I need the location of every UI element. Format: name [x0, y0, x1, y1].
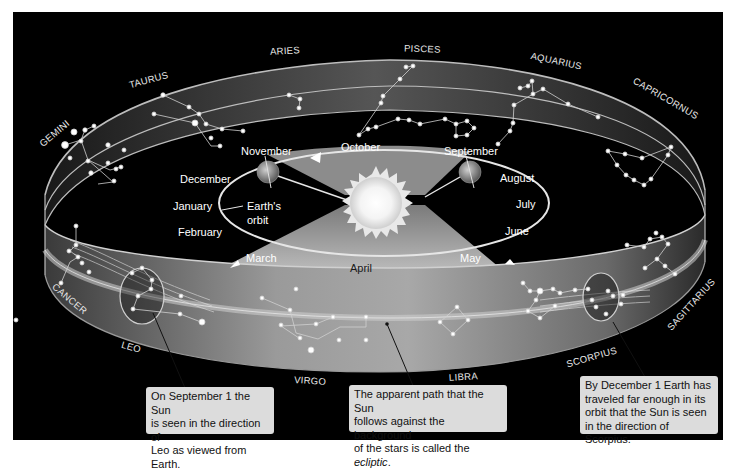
ecliptic-callout-line3-period: .: [388, 456, 391, 468]
scorpius-callout-line2: traveled far enough in its: [585, 393, 713, 407]
ecliptic-term: ecliptic: [354, 456, 388, 468]
ecliptic-callout-line3: of the stars is called the ecliptic.: [354, 442, 502, 469]
leo-callout: On September 1 the Sun is seen in the di…: [146, 387, 274, 434]
month-label-june: June: [505, 225, 529, 237]
month-label-july: July: [516, 198, 536, 210]
month-label-march: March: [246, 252, 277, 264]
constellation-label-taurus: TAURUS: [128, 69, 170, 90]
leo-callout-line2: is seen in the direction of: [151, 417, 269, 444]
leo-callout-line1: On September 1 the Sun: [151, 390, 269, 417]
ecliptic-callout: The apparent path that the Sun follows a…: [349, 385, 507, 432]
constellation-label-pisces: PISCES: [404, 43, 441, 55]
earths-orbit-label-line1: Earth's: [247, 200, 281, 212]
ecliptic-callout-line3-text: of the stars is called the: [354, 442, 470, 454]
ecliptic-callout-line1: The apparent path that the Sun: [354, 388, 502, 415]
constellation-label-virgo: VIRGO: [294, 374, 327, 387]
scorpius-callout: By December 1 Earth has traveled far eno…: [580, 376, 718, 434]
month-label-october: October: [341, 141, 380, 153]
month-label-january: January: [173, 200, 213, 212]
leo-callout-line3: Leo as viewed from Earth.: [151, 444, 269, 471]
scorpius-callout-pointer: [613, 322, 645, 377]
ecliptic-callout-line2: follows against the background: [354, 415, 502, 442]
constellation-label-aquarius: AQUARIUS: [530, 50, 583, 72]
constellation-label-aries: ARIES: [270, 44, 301, 57]
scorpius-callout-line1: By December 1 Earth has: [585, 379, 713, 393]
month-label-december: December: [180, 173, 231, 185]
month-label-november: November: [241, 145, 292, 157]
month-label-may: May: [460, 252, 481, 264]
leo-highlight: [120, 268, 164, 324]
month-label-april: April: [350, 262, 372, 274]
month-label-february: February: [178, 226, 223, 238]
constellation-label-libra: LIBRA: [449, 370, 479, 383]
month-label-august: August: [500, 172, 534, 184]
month-label-september: September: [444, 145, 498, 157]
scorpius-callout-line4: in the direction of Scorpius.: [585, 420, 713, 447]
earths-orbit-label-line2: orbit: [247, 214, 268, 226]
scorpius-callout-line3: orbit that the Sun is seen: [585, 406, 713, 420]
